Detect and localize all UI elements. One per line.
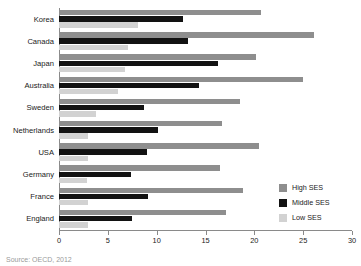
bar-group-usa: [59, 141, 352, 163]
x-tick-label-10: 10: [153, 236, 161, 245]
bar-group-canada: [59, 30, 352, 52]
x-tick-label-5: 5: [106, 236, 110, 245]
category-axis-labels: KoreaCanadaJapanAustraliaSwedenNetherlan…: [0, 8, 59, 230]
bar-canada-high-ses: [59, 32, 314, 37]
bar-group-japan: [59, 52, 352, 74]
bar-sweden-middle-ses: [59, 105, 144, 110]
bar-netherlands-middle-ses: [59, 127, 158, 132]
x-tick-5: [108, 231, 109, 235]
x-tick-20: [254, 231, 255, 235]
x-tick-10: [157, 231, 158, 235]
legend-label: Middle SES: [292, 198, 330, 207]
category-label-france: France: [0, 192, 54, 201]
bar-japan-middle-ses: [59, 61, 218, 66]
bar-france-high-ses: [59, 188, 243, 193]
bar-australia-low-ses: [59, 89, 118, 94]
bar-japan-low-ses: [59, 67, 125, 72]
bar-usa-middle-ses: [59, 149, 147, 154]
x-tick-label-0: 0: [57, 236, 61, 245]
x-tick-label-25: 25: [299, 236, 307, 245]
x-tick-30: [352, 231, 353, 235]
bar-group-sweden: [59, 97, 352, 119]
bar-korea-middle-ses: [59, 16, 183, 21]
bar-group-netherlands: [59, 119, 352, 141]
bar-usa-low-ses: [59, 156, 88, 161]
legend-swatch-icon: [279, 199, 287, 207]
bar-korea-high-ses: [59, 10, 261, 15]
x-tick-label-20: 20: [250, 236, 258, 245]
bar-germany-low-ses: [59, 178, 87, 183]
bar-sweden-high-ses: [59, 99, 240, 104]
bar-netherlands-high-ses: [59, 121, 222, 126]
x-tick-label-15: 15: [201, 236, 209, 245]
bar-group-korea: [59, 8, 352, 30]
category-label-canada: Canada: [0, 37, 54, 46]
category-label-korea: Korea: [0, 15, 54, 24]
bar-germany-middle-ses: [59, 172, 131, 177]
bar-england-middle-ses: [59, 216, 132, 221]
bar-korea-low-ses: [59, 22, 138, 27]
bar-canada-low-ses: [59, 45, 128, 50]
legend-swatch-icon: [279, 184, 287, 192]
bar-germany-high-ses: [59, 165, 220, 170]
source-note: Source: OECD, 2012: [6, 255, 72, 264]
bar-japan-high-ses: [59, 54, 256, 59]
bar-sweden-low-ses: [59, 111, 96, 116]
x-tick-15: [206, 231, 207, 235]
category-label-england: England: [0, 214, 54, 223]
bar-england-high-ses: [59, 210, 226, 215]
category-label-australia: Australia: [0, 81, 54, 90]
x-axis: 051015202530: [59, 231, 352, 247]
legend-item-low-ses: Low SES: [279, 210, 359, 225]
legend-item-middle-ses: Middle SES: [279, 195, 359, 210]
bar-australia-middle-ses: [59, 83, 199, 88]
bar-england-low-ses: [59, 222, 88, 227]
chart-legend: High SESMiddle SESLow SES: [279, 180, 359, 225]
category-label-germany: Germany: [0, 170, 54, 179]
category-label-japan: Japan: [0, 59, 54, 68]
x-tick-label-30: 30: [348, 236, 356, 245]
x-tick-0: [59, 231, 60, 235]
x-tick-25: [303, 231, 304, 235]
bar-netherlands-low-ses: [59, 133, 88, 138]
legend-swatch-icon: [279, 214, 287, 222]
legend-label: Low SES: [292, 213, 322, 222]
category-label-sweden: Sweden: [0, 103, 54, 112]
bar-usa-high-ses: [59, 143, 259, 148]
bar-australia-high-ses: [59, 77, 303, 82]
chart-container: KoreaCanadaJapanAustraliaSwedenNetherlan…: [0, 0, 361, 266]
category-label-netherlands: Netherlands: [0, 126, 54, 135]
legend-label: High SES: [292, 183, 323, 192]
bar-group-australia: [59, 75, 352, 97]
bar-france-middle-ses: [59, 194, 148, 199]
bar-canada-middle-ses: [59, 38, 188, 43]
category-label-usa: USA: [0, 148, 54, 157]
legend-item-high-ses: High SES: [279, 180, 359, 195]
bar-france-low-ses: [59, 200, 88, 205]
